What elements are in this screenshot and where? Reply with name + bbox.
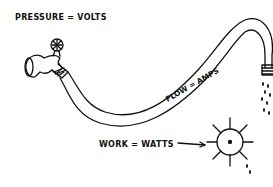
- hose-icon: [60, 19, 273, 126]
- pressure-label: PRESSURE = VOLTS: [15, 13, 107, 22]
- faucet-icon: [25, 39, 68, 78]
- arrow-icon: [178, 142, 205, 147]
- work-label: WORK = WATTS: [99, 140, 174, 149]
- water-wheel-icon: [207, 118, 253, 166]
- water-analogy-diagram: PRESSURE = VOLTS FLOW = AMPS WORK = WATT…: [0, 0, 273, 187]
- diagram-drawing: [0, 0, 273, 187]
- water-drops-icon: [246, 82, 271, 174]
